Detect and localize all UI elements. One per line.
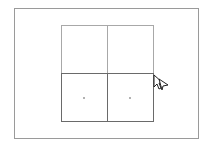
cell-center-dot (83, 97, 85, 99)
grid-cell-top-left[interactable] (61, 25, 108, 74)
grid-cell-top-right[interactable] (107, 25, 154, 74)
cell-center-dot (129, 97, 131, 99)
move-cursor-icon (153, 74, 169, 92)
